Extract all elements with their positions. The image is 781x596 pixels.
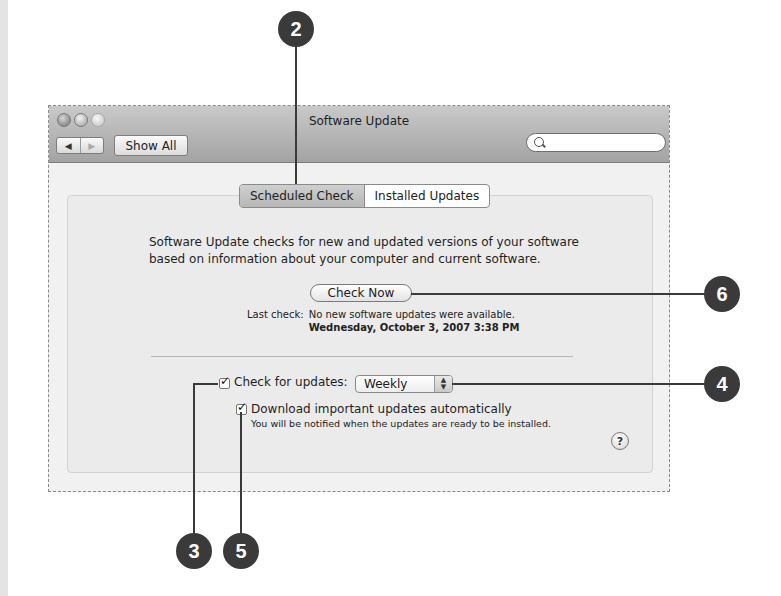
check-now-button[interactable]: Check Now — [310, 284, 412, 302]
callout-5-leader — [240, 412, 242, 533]
check-for-updates-label[interactable]: Check for updates: — [234, 375, 348, 389]
callout-5-badge: 5 — [223, 533, 259, 569]
description-text: Software Update checks for new and updat… — [149, 234, 609, 268]
separator — [151, 356, 573, 357]
last-check-info: Last check: No new software updates were… — [247, 308, 519, 334]
download-automatically-label[interactable]: Download important updates automatically — [251, 402, 512, 416]
last-check-status: No new software updates were available. — [309, 308, 520, 321]
window-titlebar: Software Update ◀ ▶ Show All — [49, 106, 669, 163]
window-title: Software Update — [49, 114, 669, 128]
callout-2-badge: 2 — [278, 11, 314, 47]
callout-4-leader — [452, 383, 705, 385]
search-icon — [534, 137, 544, 147]
search-input[interactable] — [547, 135, 661, 151]
last-check-label: Last check: — [247, 308, 304, 334]
callout-2-leader — [295, 46, 297, 184]
show-all-button[interactable]: Show All — [114, 135, 188, 156]
back-forward-control: ◀ ▶ — [56, 137, 104, 154]
callout-3-badge: 3 — [176, 533, 212, 569]
frequency-value: Weekly — [364, 377, 407, 391]
tab-scheduled-check[interactable]: Scheduled Check — [240, 185, 365, 207]
back-button[interactable]: ◀ — [57, 138, 80, 153]
back-arrow-icon: ◀ — [65, 141, 72, 151]
callout-4-badge: 4 — [704, 366, 740, 402]
callout-3-leader-h — [194, 383, 218, 385]
check-for-updates-checkbox[interactable] — [219, 378, 230, 389]
callout-3-leader-v — [193, 383, 195, 533]
description-line-2: based on information about your computer… — [149, 251, 609, 268]
frequency-popup[interactable]: Weekly ▲▼ — [355, 375, 453, 393]
search-field[interactable] — [526, 133, 666, 152]
popup-arrows-icon: ▲▼ — [434, 376, 452, 392]
page-edge-strip — [0, 0, 8, 596]
callout-6-leader — [411, 293, 705, 295]
preferences-window: Software Update ◀ ▶ Show All Scheduled C… — [48, 105, 670, 492]
download-automatically-note: You will be notified when the updates ar… — [251, 418, 551, 429]
forward-arrow-icon: ▶ — [88, 141, 95, 151]
description-line-1: Software Update checks for new and updat… — [149, 234, 609, 251]
tab-control: Scheduled Check Installed Updates — [239, 184, 490, 208]
tab-installed-updates[interactable]: Installed Updates — [365, 185, 490, 207]
callout-6-badge: 6 — [704, 276, 740, 312]
last-check-time: Wednesday, October 3, 2007 3:38 PM — [309, 321, 520, 334]
help-button[interactable]: ? — [611, 432, 629, 450]
forward-button[interactable]: ▶ — [80, 138, 104, 153]
